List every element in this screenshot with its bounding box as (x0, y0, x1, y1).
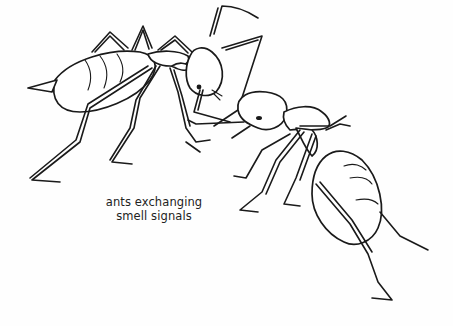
caption-line-2: smell signals (94, 209, 214, 223)
caption: ants exchanging smell signals (94, 195, 214, 223)
caption-line-1: ants exchanging (94, 195, 214, 209)
ant-left-icon (28, 6, 262, 182)
illustration-canvas: ants exchanging smell signals (0, 0, 453, 326)
ants-drawing (0, 0, 453, 326)
ant-right-icon (188, 92, 428, 300)
